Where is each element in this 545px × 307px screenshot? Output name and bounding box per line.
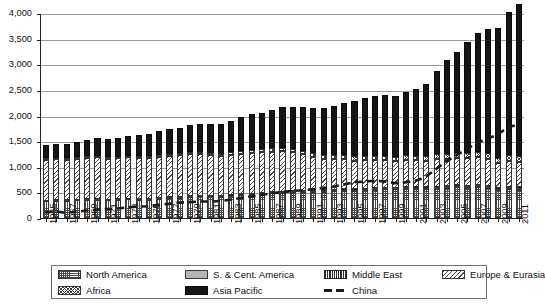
x-axis-tick-label: 2009: [501, 203, 510, 224]
china-line-overlay: [40, 14, 523, 219]
x-axis-tick-label: 1987: [275, 203, 284, 224]
legend-swatch: [185, 270, 208, 279]
x-axis-tick-label: 1967: [69, 203, 78, 224]
y-axis-tick-label: 0: [0, 214, 32, 223]
x-axis-tick-label: 1989: [295, 203, 304, 224]
legend-label: Africa: [86, 286, 111, 296]
legend-row-top: North AmericaS. & Cent. AmericaMiddle Ea…: [52, 266, 486, 283]
legend-swatch: [58, 286, 81, 295]
legend-label: Asia Pacific: [213, 286, 263, 296]
x-axis-tick-label: 1985: [254, 203, 263, 224]
x-axis-tick-label: 2011: [521, 204, 530, 224]
legend-item: Europe & Eurasia: [442, 266, 545, 283]
legend-swatch: [58, 270, 81, 279]
legend-swatch: [324, 270, 347, 279]
x-axis-tick-label: 1969: [90, 203, 99, 224]
x-axis-tick-label: 1983: [234, 203, 243, 224]
x-axis-tick-label: 2007: [480, 203, 489, 224]
x-axis-tick-label: 1997: [378, 203, 387, 224]
legend-swatch: [442, 270, 465, 279]
x-axis-tick-label: 1979: [193, 203, 202, 224]
x-axis-tick-label: 1973: [131, 203, 140, 224]
x-axis-tick-label: 1977: [172, 203, 181, 224]
x-axis-tick-label: 2003: [439, 203, 448, 224]
x-axis-tick-label: 1995: [357, 203, 366, 224]
x-axis-tick-label: 2005: [460, 203, 469, 224]
legend-label: S. & Cent. America: [213, 270, 294, 280]
legend-label: Europe & Eurasia: [470, 270, 545, 280]
y-axis-tick-label: 1,500: [0, 137, 32, 146]
legend-item: Middle East: [324, 266, 402, 283]
y-axis-tick-label: 2,500: [0, 86, 32, 95]
legend-swatch-dashed-line-icon: [324, 286, 347, 295]
y-axis-tick-label: 2,000: [0, 112, 32, 121]
y-axis-tick: [37, 219, 41, 220]
legend-label: China: [352, 286, 377, 296]
x-axis-tick-label: 1991: [316, 203, 325, 224]
x-axis-tick-label: 1999: [398, 203, 407, 224]
y-axis-tick-label: 3,000: [0, 60, 32, 69]
x-axis-tick-label: 1981: [213, 203, 222, 224]
x-axis-tick-label: 1993: [336, 203, 345, 224]
legend-label: Middle East: [352, 270, 402, 280]
legend-item: Africa: [58, 282, 111, 299]
x-axis-tick-label: 1975: [152, 203, 161, 224]
china-line: [45, 125, 518, 213]
legend-row-bottom: AfricaAsia PacificChina: [52, 282, 486, 299]
legend-item: China: [324, 282, 377, 299]
legend-swatch: [185, 286, 208, 295]
legend-item: Asia Pacific: [185, 282, 263, 299]
y-axis-tick-label: 4,000: [0, 9, 32, 18]
y-axis-tick-label: 3,500: [0, 35, 32, 44]
x-axis-tick-label: 2001: [419, 203, 428, 224]
legend-item: North America: [58, 266, 147, 283]
legend-item: S. & Cent. America: [185, 266, 294, 283]
y-axis-tick-label: 1,000: [0, 163, 32, 172]
chart-legend: North AmericaS. & Cent. AmericaMiddle Ea…: [51, 265, 487, 299]
x-axis-tick-label: 1971: [110, 203, 119, 224]
x-axis-tick-label: 1965: [49, 203, 58, 224]
y-axis-tick-label: 500: [0, 188, 32, 197]
legend-label: North America: [86, 270, 147, 280]
